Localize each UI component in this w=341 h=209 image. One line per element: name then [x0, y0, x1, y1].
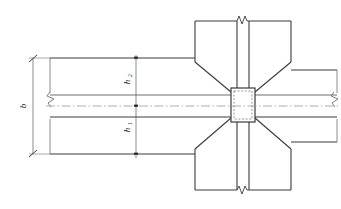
- drawing-canvas: b h 2 h 1: [0, 0, 341, 209]
- top-column: [195, 21, 291, 92]
- label-h2-subscript: 2: [127, 74, 133, 77]
- break-symbol-bottom: [237, 186, 249, 194]
- break-symbol-top: [237, 16, 249, 24]
- label-lower-haunch-depth: h 1: [122, 122, 133, 132]
- break-symbol-right: [331, 92, 338, 107]
- dimension-haunch-depths: [134, 55, 138, 158]
- break-symbol-left: [47, 92, 54, 107]
- label-overall-depth: b: [18, 103, 28, 108]
- joint-core-square: [231, 88, 255, 122]
- joint-detail-drawing: b h 2 h 1: [0, 0, 341, 209]
- label-b-text: b: [18, 103, 28, 108]
- bottom-column: [195, 118, 291, 190]
- label-upper-haunch-depth: h 2: [122, 74, 133, 84]
- label-h1-text: h: [122, 127, 132, 132]
- label-h1-subscript: 1: [127, 122, 133, 125]
- label-h2-text: h: [122, 79, 132, 84]
